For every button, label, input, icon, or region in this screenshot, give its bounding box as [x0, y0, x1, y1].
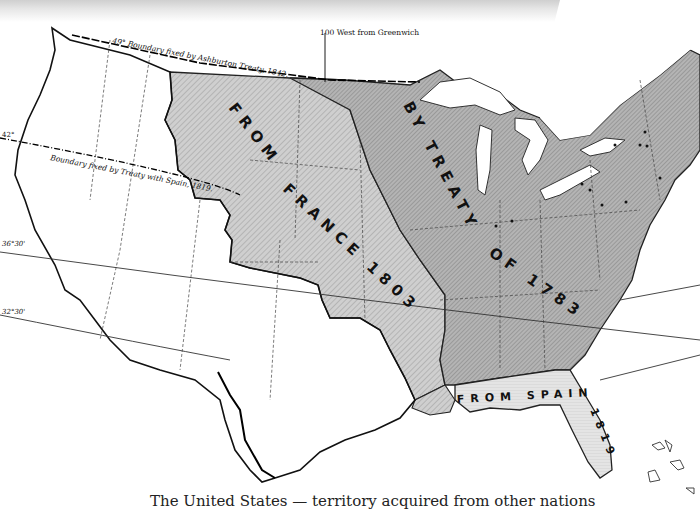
- map-caption: The United States — territory acquired f…: [150, 492, 596, 510]
- lat-east-line-2: [600, 355, 700, 380]
- lat-36-30-label: 36°30': [2, 240, 25, 248]
- lat-32-30-label: 32°30': [2, 308, 25, 316]
- bahamas-islands: [648, 440, 694, 494]
- lat-42-label: 42°: [2, 131, 14, 139]
- lat-east-line: [620, 285, 700, 300]
- lat-32-30-line: [0, 315, 230, 360]
- meridian-label: 100 West from Greenwich: [320, 28, 419, 37]
